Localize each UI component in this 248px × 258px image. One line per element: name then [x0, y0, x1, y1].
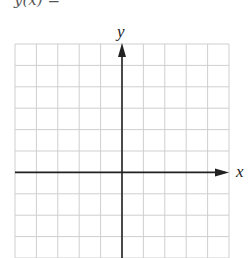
x-axis-label: x — [235, 162, 244, 181]
coordinate-grid: x y — [0, 0, 248, 258]
axes: x y — [15, 22, 244, 258]
y-axis-label: y — [115, 22, 125, 41]
x-axis-arrow-icon — [215, 168, 229, 176]
y-axis-arrow-icon — [118, 43, 126, 57]
